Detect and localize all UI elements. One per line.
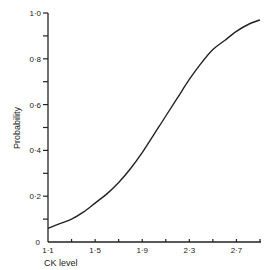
x-tick-label: 1·9 bbox=[136, 246, 148, 255]
y-ticks: 00·20·40·60·81·0 bbox=[29, 9, 48, 247]
y-tick-label: 0·4 bbox=[29, 146, 41, 155]
x-tick-label: 2·7 bbox=[231, 246, 243, 255]
y-tick-label: 0 bbox=[36, 238, 41, 247]
y-tick-label: 1·0 bbox=[29, 9, 41, 18]
y-tick-label: 0·8 bbox=[29, 55, 41, 64]
probability-curve bbox=[48, 20, 260, 228]
axes: 00·20·40·60·81·0 1·11·51·92·32·7 bbox=[29, 9, 261, 255]
x-axis-label: CK level bbox=[44, 258, 78, 268]
x-tick-label: 1·5 bbox=[89, 246, 101, 255]
y-axis-label: Probability bbox=[12, 106, 22, 149]
y-tick-label: 0·6 bbox=[29, 101, 41, 110]
x-tick-label: 1·1 bbox=[42, 246, 54, 255]
y-tick-label: 0·2 bbox=[29, 192, 41, 201]
x-tick-label: 2·3 bbox=[184, 246, 196, 255]
probability-curve-chart: 00·20·40·60·81·0 1·11·51·92·32·7 Probabi… bbox=[0, 0, 271, 270]
